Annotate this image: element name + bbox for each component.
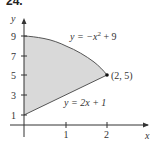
- point-label: (2, 5): [111, 70, 133, 82]
- x-axis-arrow-icon: [143, 123, 149, 128]
- y-tick-label-1: 1: [11, 110, 16, 121]
- x-tick-label-1: 1: [64, 129, 69, 140]
- y-tick-label-7: 7: [11, 51, 16, 62]
- y-tick-label-5: 5: [11, 70, 16, 81]
- lower-curve-label: y = 2x + 1: [63, 97, 106, 108]
- intersection-point: [105, 73, 109, 77]
- x-axis-label: x: [144, 130, 150, 141]
- y-axis-arrow-icon: [22, 18, 27, 24]
- y-tick-label-3: 3: [11, 90, 16, 101]
- upper-curve-label: y = −x2 + 9: [69, 30, 117, 42]
- x-tick-label-2: 2: [104, 129, 109, 140]
- y-tick-label-9: 9: [11, 31, 16, 42]
- chart-canvas: 9 7 5 3 1 1 2 y x (2, 5) y = −x2 + 9 y =…: [0, 0, 155, 147]
- y-axis-label: y: [10, 13, 16, 24]
